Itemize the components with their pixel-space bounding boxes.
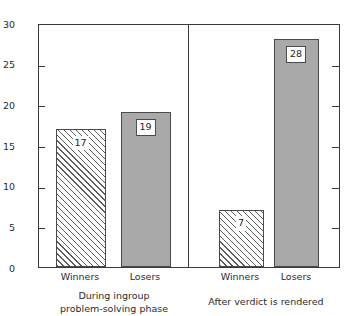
y-tick-label-15: 15 bbox=[0, 142, 15, 152]
group1-caption: During ingroup problem-solving phase bbox=[40, 290, 188, 315]
y-tick-label-20: 20 bbox=[0, 101, 15, 111]
bar-value-label: 19 bbox=[136, 119, 156, 136]
category-label-group1-losers: Losers bbox=[105, 272, 185, 282]
group1-caption-line2: problem-solving phase bbox=[40, 303, 188, 316]
bar-value-label: 17 bbox=[73, 136, 89, 151]
y-tick-10 bbox=[39, 188, 45, 189]
bar-group1-winners: 17 bbox=[56, 129, 106, 267]
y-tick-label-10: 10 bbox=[0, 182, 15, 192]
category-label-group2-losers: Losers bbox=[256, 272, 336, 282]
y-tick-20 bbox=[39, 106, 45, 107]
bar-group2-losers: 28 bbox=[274, 39, 319, 267]
y-tick-right-25 bbox=[332, 66, 339, 67]
y-tick-right-5 bbox=[332, 228, 339, 229]
bar-value-label: 7 bbox=[236, 216, 246, 231]
bar-value-label: 28 bbox=[286, 46, 306, 63]
y-tick-right-10 bbox=[332, 188, 339, 189]
y-tick-25 bbox=[39, 66, 45, 67]
group1-caption-line1: During ingroup bbox=[40, 290, 188, 303]
bar-chart-figure: 30 25 20 15 10 5 0 17 19 7 bbox=[0, 0, 358, 316]
bar-group2-winners: 7 bbox=[219, 210, 264, 267]
group-divider bbox=[188, 25, 189, 267]
y-tick-15 bbox=[39, 147, 45, 148]
y-tick-label-0: 0 bbox=[0, 264, 15, 274]
plot-area: 17 19 7 28 bbox=[38, 24, 340, 268]
y-tick-label-5: 5 bbox=[0, 223, 15, 233]
group2-caption: After verdict is rendered bbox=[190, 296, 342, 309]
y-tick-label-25: 25 bbox=[0, 60, 15, 70]
y-tick-5 bbox=[39, 228, 45, 229]
bar-group1-losers: 19 bbox=[121, 112, 171, 267]
y-tick-label-30: 30 bbox=[0, 20, 15, 30]
y-tick-right-20 bbox=[332, 106, 339, 107]
y-tick-right-15 bbox=[332, 147, 339, 148]
group2-caption-line1: After verdict is rendered bbox=[190, 296, 342, 309]
